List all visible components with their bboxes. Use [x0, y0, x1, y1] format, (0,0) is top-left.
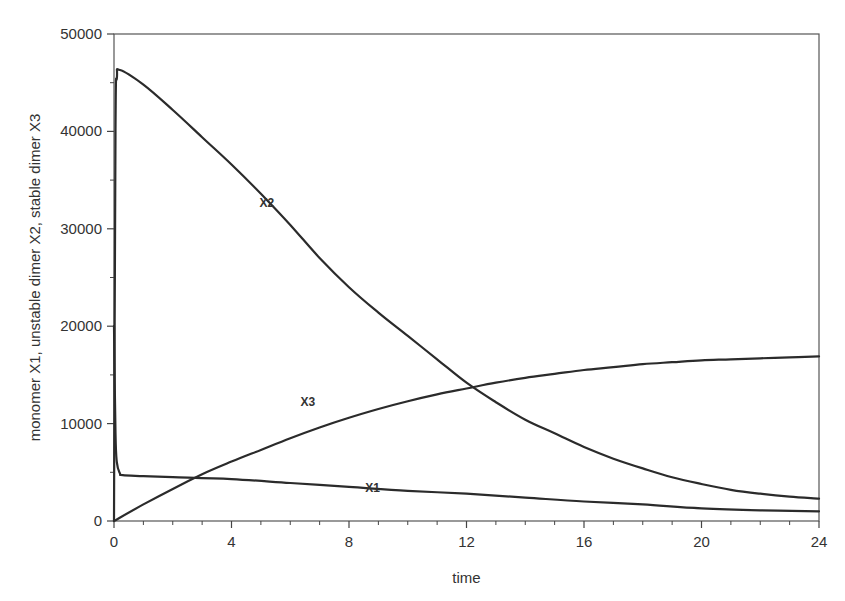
x-axis-title: time [452, 569, 480, 586]
x-tick-label: 24 [811, 533, 828, 550]
plot-area-border [114, 34, 819, 521]
x-tick-label: 16 [576, 533, 593, 550]
plot-frame [114, 34, 819, 521]
y-tick-label: 40000 [60, 122, 102, 139]
series-line-x1 [114, 326, 819, 511]
x-tick-label: 0 [110, 533, 118, 550]
series-label-x1: X1 [365, 481, 380, 495]
x-tick-label: 12 [458, 533, 475, 550]
x-tick-label: 20 [693, 533, 710, 550]
y-tick-label: 10000 [60, 415, 102, 432]
y-axis-title: monomer X1, unstable dimer X2, stable di… [26, 114, 43, 442]
line-chart: 01000020000300004000050000 04812162024 X… [0, 0, 845, 601]
x-tick-label: 4 [227, 533, 235, 550]
series-label-x2: X2 [259, 196, 274, 210]
x-axis: 04812162024 [110, 521, 828, 550]
series-line-x2 [114, 69, 819, 521]
series-labels: X1X2X3 [259, 196, 380, 494]
y-tick-label: 20000 [60, 317, 102, 334]
x-tick-label: 8 [345, 533, 353, 550]
y-tick-label: 50000 [60, 25, 102, 42]
series-label-x3: X3 [301, 395, 316, 409]
y-tick-label: 30000 [60, 220, 102, 237]
series-line-x3 [114, 356, 819, 521]
series-lines [114, 69, 819, 521]
y-tick-label: 0 [94, 512, 102, 529]
y-axis: 01000020000300004000050000 [60, 25, 114, 529]
